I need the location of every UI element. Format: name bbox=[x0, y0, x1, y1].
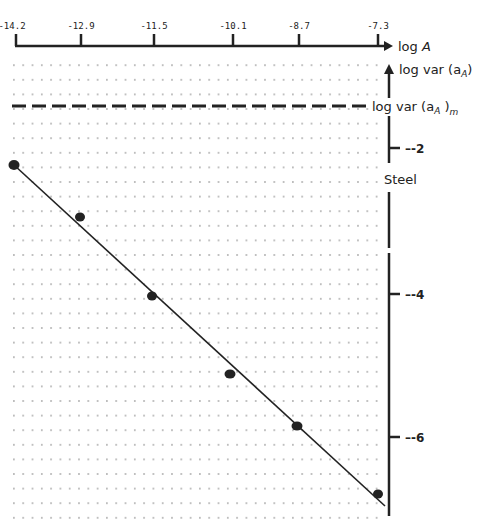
x-tick-label: -8.7 bbox=[288, 21, 310, 31]
data-point bbox=[75, 213, 85, 222]
x-axis: -14.2 -12.9 -11.5 -10.1 -8.7 -7.3 log A bbox=[0, 21, 431, 54]
y-axis-arrow-icon bbox=[384, 64, 394, 74]
data-point bbox=[373, 490, 383, 499]
data-point bbox=[292, 422, 303, 431]
x-axis-label: log A bbox=[398, 39, 431, 54]
x-tick-label: -10.1 bbox=[219, 21, 246, 31]
series-label-steel: Steel bbox=[384, 172, 417, 187]
x-tick-label: -7.3 bbox=[367, 21, 389, 31]
y-axis: –-2 –-4 –-6 bbox=[384, 64, 424, 516]
chart: -14.2 -12.9 -11.5 -10.1 -8.7 -7.3 log A … bbox=[0, 0, 499, 529]
x-tick-label: -12.9 bbox=[67, 21, 94, 31]
dotted-grid bbox=[12, 52, 384, 520]
y-tick-label: –-4 bbox=[405, 288, 424, 302]
reference-line-label: log var (aA )m bbox=[372, 99, 459, 117]
x-axis-arrow-icon bbox=[384, 41, 393, 51]
x-tick-label: -14.2 bbox=[0, 21, 26, 31]
data-point bbox=[147, 292, 157, 301]
data-point bbox=[225, 370, 236, 379]
x-tick-label: -11.5 bbox=[140, 21, 167, 31]
y-tick-label: –-6 bbox=[405, 431, 424, 445]
x-axis-label-log: log bbox=[398, 39, 422, 54]
data-point bbox=[9, 160, 20, 170]
y-axis-label: log var (aA) bbox=[399, 62, 472, 79]
y-tick-label: –-2 bbox=[405, 142, 424, 156]
